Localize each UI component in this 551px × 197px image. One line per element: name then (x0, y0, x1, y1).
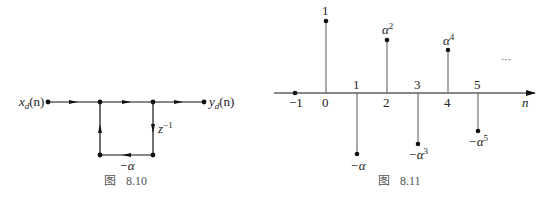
sample-n1 (355, 152, 360, 157)
value-label-n5: −α5 (468, 133, 489, 149)
value-label-n3: −α3 (408, 146, 429, 162)
value-label-n4: α4 (443, 32, 455, 48)
figure-8-10-flow-graph: xd(n) yd(n) z−1 −α 图8.10 (18, 94, 234, 188)
branch-node (151, 100, 156, 105)
tick-label: −1 (289, 95, 303, 110)
arrow-left-icon (122, 153, 131, 157)
arrow-up-icon (98, 124, 102, 133)
continuation-ellipsis: ··· (501, 54, 511, 65)
figure-8-10-caption: 图8.10 (104, 174, 147, 188)
output-node (202, 100, 207, 105)
delay-out-node (151, 153, 156, 158)
value-label-n1: −α (350, 158, 367, 173)
tick-label: 0 (322, 95, 329, 110)
figure-8-11-stem-plot: n −1 0 1 2 3 4 5 1 −α α2 −α3 α4 −α5 ··· … (274, 3, 535, 188)
figure-8-11-caption: 图8.11 (378, 174, 421, 188)
tick-label: 2 (383, 95, 390, 110)
tick-label: 4 (444, 95, 451, 110)
tick-label: 1 (353, 77, 360, 92)
tick-label: 5 (474, 77, 481, 92)
input-node (46, 100, 51, 105)
gain-out-node (98, 153, 103, 158)
feedback-gain-label: −α (119, 158, 136, 173)
sample-n2 (385, 38, 390, 43)
sample-n4 (446, 48, 451, 53)
sample-n5 (476, 129, 481, 134)
sum-node (98, 100, 103, 105)
figures-canvas: xd(n) yd(n) z−1 −α 图8.10 n −1 0 1 2 3 4 … (0, 0, 551, 197)
arrow-down-icon (151, 124, 155, 133)
arrow-right-icon (122, 100, 131, 104)
n-axis-label: n (522, 95, 529, 110)
sample-n0 (324, 19, 329, 24)
value-label-n0: 1 (322, 3, 329, 18)
arrow-right-icon (69, 100, 78, 104)
sample-n3 (416, 142, 421, 147)
output-label: yd(n) (207, 94, 234, 111)
arrow-right-icon (174, 100, 183, 104)
delay-label: z−1 (157, 120, 173, 136)
value-label-n2: α2 (382, 21, 393, 37)
tick-label: 3 (414, 77, 421, 92)
input-label: xd(n) (18, 94, 44, 111)
